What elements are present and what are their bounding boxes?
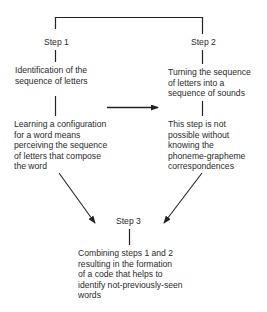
text-line: Turning the sequence bbox=[168, 67, 251, 78]
step2-label: Step 2 bbox=[191, 37, 216, 47]
top-bracket-line bbox=[56, 18, 203, 35]
step1-description: Identification of the sequence of letter… bbox=[15, 65, 88, 86]
text-line: the word bbox=[14, 161, 107, 172]
text-line: knowing the bbox=[168, 140, 245, 151]
diagonal-arrow-left bbox=[59, 173, 95, 223]
text-line: Combining steps 1 and 2 bbox=[78, 248, 183, 259]
text-line: Identification of the bbox=[15, 65, 88, 76]
text-line: phoneme-grapheme bbox=[168, 151, 245, 162]
text-line: sequence of sounds bbox=[168, 88, 251, 99]
step3-description: Combining steps 1 and 2 resulting in the… bbox=[78, 248, 183, 301]
text-line: for a word means bbox=[14, 130, 107, 141]
text-line: of letters into a bbox=[168, 78, 251, 89]
text-line: This step is not bbox=[168, 119, 245, 130]
text-line: perceiving the sequence bbox=[14, 140, 107, 151]
text-line: resulting in the formation bbox=[78, 259, 183, 270]
text-line: sequence of letters bbox=[15, 76, 88, 87]
step2-explanation: This step is not possible without knowin… bbox=[168, 119, 245, 172]
text-line: correspondences bbox=[168, 161, 245, 172]
step2-description: Turning the sequence of letters into a s… bbox=[168, 67, 251, 99]
step1-explanation: Learning a configuration for a word mean… bbox=[14, 119, 107, 172]
text-line: words bbox=[78, 290, 183, 301]
step1-label: Step 1 bbox=[44, 37, 69, 47]
text-line: possible without bbox=[168, 130, 245, 141]
diagonal-arrow-right bbox=[164, 173, 202, 223]
step3-label: Step 3 bbox=[116, 216, 141, 226]
text-line: of a code that helps to bbox=[78, 269, 183, 280]
text-line: Learning a configuration bbox=[14, 119, 107, 130]
text-line: of letters that compose bbox=[14, 151, 107, 162]
text-line: identify not-previously-seen bbox=[78, 280, 183, 291]
